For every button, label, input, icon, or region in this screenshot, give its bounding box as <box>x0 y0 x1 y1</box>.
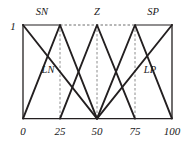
x-tick-label-0: 0 <box>20 126 26 137</box>
set-label-ln: LN <box>42 65 55 76</box>
set-label-sp: SP <box>147 7 159 18</box>
x-tick-label-25: 25 <box>55 126 66 137</box>
dashed-gridlines <box>60 25 135 119</box>
y-axis-max-label: 1 <box>10 21 16 32</box>
set-label-z: Z <box>94 7 100 18</box>
set-label-sn: SN <box>36 7 48 18</box>
x-tick-label-50: 50 <box>92 126 103 137</box>
fuzzy-membership-figure: 1 SN Z SP LN LP 0 25 50 75 100 <box>0 0 191 147</box>
x-tick-label-100: 100 <box>164 126 181 137</box>
set-label-lp: LP <box>144 65 156 76</box>
x-tick-label-75: 75 <box>130 126 141 137</box>
